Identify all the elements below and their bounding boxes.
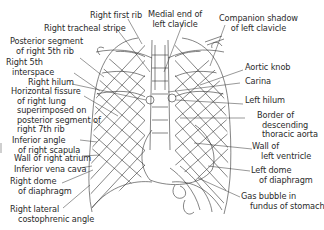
label-posterior-segment-5th-rib: Posterior segmentof right 5th rib	[10, 37, 83, 56]
label-carina: Carina	[245, 77, 271, 87]
label-inferior-vena-cava: Inferior vena cava	[14, 165, 86, 175]
edge-mark	[0, 143, 2, 153]
label-left-hilum: Left hilum	[245, 96, 285, 106]
heart	[142, 125, 214, 185]
label-wall-left-ventricle: Wall ofleft ventricle	[252, 142, 311, 161]
label-medial-end-left-clavicle: Medial end ofleft clavicle	[148, 10, 202, 29]
label-right-tracheal-stripe: Right tracheal stripe	[44, 24, 126, 34]
label-right-5th-interspace: Right 5thinterspace	[6, 58, 54, 77]
label-horizontal-fissure: Horizontal fissureof right lungsuperimpo…	[11, 87, 101, 135]
label-wall-right-atrium: Wall of right atrium	[14, 154, 91, 164]
spine	[150, 40, 170, 150]
label-descending-aorta: Border ofdescendingthoracic aorta	[257, 111, 318, 140]
label-companion-shadow: Companion shadowof left clavicle	[219, 14, 298, 33]
label-gas-bubble: Gas bubble infundus of stomach	[241, 192, 324, 211]
label-aortic-knob: Aortic knob	[245, 63, 290, 73]
label-left-dome-diaphragm: Left domeof diaphragm	[251, 166, 313, 185]
diaphragm	[92, 182, 222, 210]
label-right-dome-diaphragm: Right domeof diaphragm	[10, 177, 72, 196]
clavicles	[96, 50, 224, 58]
label-right-first-rib: Right first rib	[90, 11, 142, 21]
label-right-costophrenic-angle: Right lateralcostophrenic angle	[10, 205, 94, 224]
